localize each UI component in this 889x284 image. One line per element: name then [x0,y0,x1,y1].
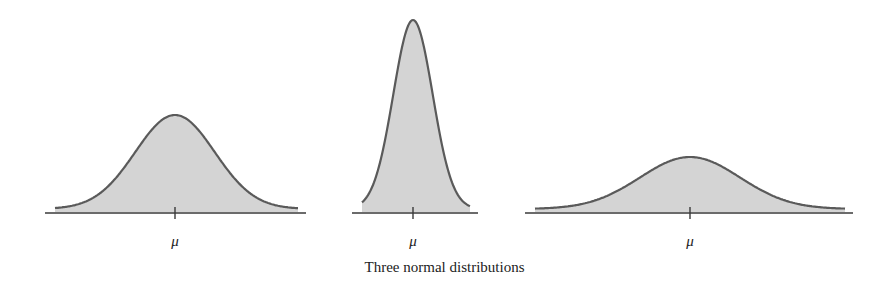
distribution-area-narrow-spread [362,20,470,212]
normal-distributions-figure: μ μ μ [0,0,889,284]
mu-label-middle: μ [408,233,417,249]
figure-caption: Three normal distributions [0,259,889,276]
mu-label-left: μ [170,233,179,249]
mu-label-right: μ [685,233,694,249]
